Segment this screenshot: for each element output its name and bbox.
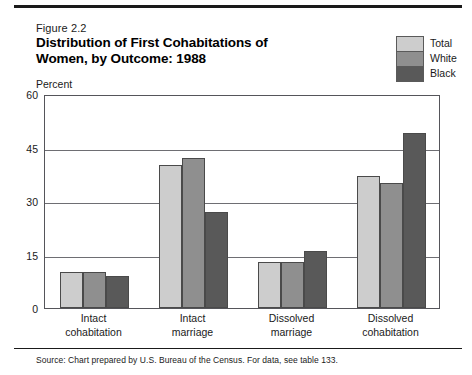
y-tick-30: 30 <box>26 196 38 208</box>
bar-black <box>205 212 228 308</box>
bar-black <box>403 133 426 308</box>
bar-total <box>60 272 83 308</box>
chart-legend: TotalWhiteBlack <box>396 36 457 82</box>
legend-swatches <box>396 36 424 82</box>
legend-labels: TotalWhiteBlack <box>430 36 457 82</box>
bar-white <box>182 158 205 308</box>
y-tick-0: 0 <box>32 303 38 315</box>
title-line-2: Women, by Outcome: 1988 <box>36 51 336 67</box>
legend-swatch-black <box>397 66 423 81</box>
bar-total <box>159 165 182 308</box>
figure-number: Figure 2.2 <box>36 22 87 34</box>
bar-group <box>60 94 129 308</box>
x-tick-label: Intactcohabitation <box>44 312 143 339</box>
y-tick-45: 45 <box>26 143 38 155</box>
y-axis-title: Percent <box>36 78 72 90</box>
bar-total <box>258 262 281 308</box>
bar-group <box>258 94 327 308</box>
plot-area <box>44 95 440 309</box>
bar-white <box>83 272 106 308</box>
bar-total <box>357 176 380 308</box>
bar-black <box>304 251 327 308</box>
legend-swatch-total <box>397 37 423 51</box>
x-tick-label: Dissolvedcohabitation <box>341 312 440 339</box>
bar-series-container <box>45 96 439 308</box>
legend-label-white: White <box>430 51 457 66</box>
y-tick-15: 15 <box>26 250 38 262</box>
legend-swatch-white <box>397 51 423 66</box>
legend-label-black: Black <box>430 66 457 81</box>
title-line-1: Distribution of First Cohabitations of <box>36 35 336 51</box>
x-tick-label: Dissolvedmarriage <box>242 312 341 339</box>
y-tick-60: 60 <box>26 89 38 101</box>
y-axis-labels: 015304560 <box>0 95 44 309</box>
bottom-divider <box>14 348 462 349</box>
top-divider <box>14 5 462 8</box>
bar-group <box>159 94 228 308</box>
legend-label-total: Total <box>430 36 457 51</box>
x-tick-label: Intactmarriage <box>143 312 242 339</box>
bar-black <box>106 276 129 308</box>
x-axis-labels: IntactcohabitationIntactmarriageDissolve… <box>44 312 440 346</box>
figure-page: Figure 2.2 Distribution of First Cohabit… <box>0 0 472 375</box>
bar-white <box>380 183 403 308</box>
source-note: Source: Chart prepared by U.S. Bureau of… <box>36 355 338 365</box>
bar-group <box>357 94 426 308</box>
page-title: Distribution of First Cohabitations of W… <box>36 35 336 66</box>
bar-white <box>281 262 304 308</box>
